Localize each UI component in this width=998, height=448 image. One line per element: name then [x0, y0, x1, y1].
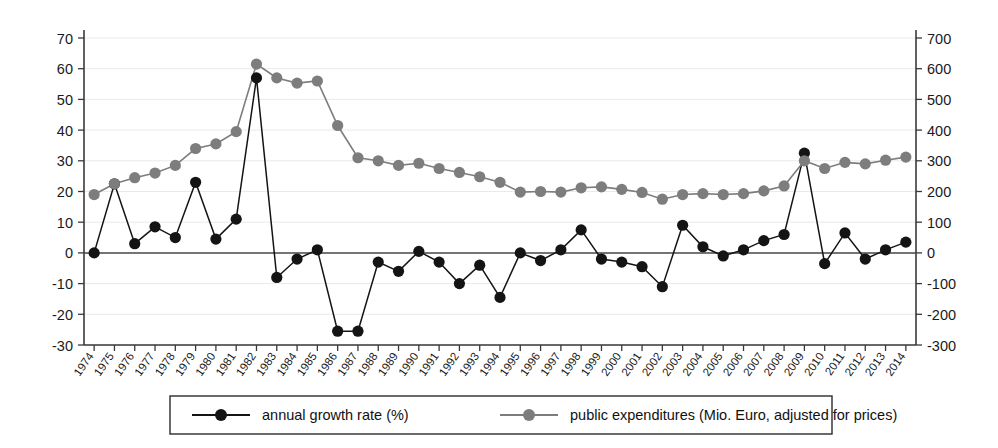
x-axis-tick-label: 1982: [234, 350, 259, 378]
data-point: [393, 160, 404, 171]
x-axis-tick-labels: 1974197519761977197819791980198119821983…: [71, 350, 908, 378]
data-point: [373, 155, 384, 166]
x-axis-tick-label: 2014: [883, 350, 908, 378]
legend-label: annual growth rate (%): [262, 407, 409, 423]
data-point: [149, 167, 160, 178]
right-axis-tick-label: -100: [927, 276, 956, 292]
x-axis-tick-label: 1985: [294, 350, 319, 378]
right-axis-tick-label: 700: [927, 31, 951, 47]
data-point: [778, 180, 789, 191]
data-point: [312, 244, 323, 255]
data-point: [312, 75, 323, 86]
data-point: [515, 187, 526, 198]
data-point: [89, 189, 100, 200]
data-point: [352, 152, 363, 163]
data-point: [210, 233, 221, 244]
data-point: [332, 120, 343, 131]
data-point: [819, 163, 830, 174]
data-point: [515, 247, 526, 258]
x-axis-tick-label: 1998: [558, 350, 583, 378]
x-axis-tick-label: 1997: [538, 350, 563, 378]
data-point: [231, 214, 242, 225]
data-point: [149, 221, 160, 232]
data-point: [860, 158, 871, 169]
legend-label: public expenditures (Mio. Euro, adjusted…: [570, 407, 897, 423]
x-axis-tick-label: 2012: [842, 350, 867, 378]
data-point: [271, 272, 282, 283]
chart-container: 706050403020100-10-20-30 700600500400300…: [0, 0, 998, 448]
data-point: [271, 72, 282, 83]
data-point: [190, 143, 201, 154]
left-axis-tick-label: -20: [52, 307, 73, 323]
x-axis-tick-label: 1988: [355, 350, 380, 378]
data-point: [657, 281, 668, 292]
left-axis-tick-label: 20: [57, 184, 73, 200]
data-point: [535, 255, 546, 266]
x-axis-tick-label: 2013: [863, 350, 888, 378]
x-axis-tick-label: 1987: [335, 350, 360, 378]
x-axis-tick-label: 2001: [619, 350, 644, 378]
right-axis-tick-label: 100: [927, 215, 951, 231]
data-point: [758, 185, 769, 196]
data-point: [596, 181, 607, 192]
data-point: [454, 167, 465, 178]
x-axis-tick-label: 1983: [254, 350, 279, 378]
data-point: [434, 163, 445, 174]
data-point: [89, 247, 100, 258]
data-point: [697, 188, 708, 199]
x-axis-tick-label: 1991: [416, 350, 441, 378]
data-point: [535, 186, 546, 197]
data-point: [718, 189, 729, 200]
data-point: [555, 187, 566, 198]
data-point: [839, 227, 850, 238]
x-axis-tick-label: 1992: [437, 350, 462, 378]
data-point: [231, 126, 242, 137]
right-axis-tick-label: 0: [927, 245, 935, 261]
data-point: [657, 194, 668, 205]
data-point: [596, 253, 607, 264]
right-axis-tick-label: 300: [927, 153, 951, 169]
data-point: [636, 261, 647, 272]
data-point: [352, 326, 363, 337]
data-point: [880, 155, 891, 166]
x-axis-tick-label: 1994: [477, 350, 502, 378]
x-axis-tick-label: 1981: [213, 350, 238, 378]
data-point: [413, 158, 424, 169]
data-point: [636, 187, 647, 198]
x-axis-tick-label: 1999: [579, 350, 604, 378]
data-point: [373, 257, 384, 268]
data-point: [190, 177, 201, 188]
right-axis-tick-label: -300: [927, 338, 956, 354]
data-point: [413, 246, 424, 257]
chart-legend: annual growth rate (%)public expenditure…: [170, 396, 897, 434]
x-axis-tick-label: 2008: [761, 350, 786, 378]
data-point: [494, 292, 505, 303]
left-axis-tick-label: 40: [57, 123, 73, 139]
data-point: [718, 250, 729, 261]
left-axis-tick-labels: 706050403020100-10-20-30: [52, 31, 73, 354]
data-point: [677, 189, 688, 200]
data-point: [900, 237, 911, 248]
data-point: [576, 224, 587, 235]
left-axis-tick-label: 50: [57, 92, 73, 108]
data-point: [900, 152, 911, 163]
x-axis-tick-label: 1989: [376, 350, 401, 378]
x-axis-tick-label: 2003: [660, 350, 685, 378]
left-axis-tick-label: 30: [57, 153, 73, 169]
data-point: [291, 253, 302, 264]
data-point: [494, 177, 505, 188]
right-axis-tick-label: 200: [927, 184, 951, 200]
right-axis-tick-label: 500: [927, 92, 951, 108]
x-axis-tick-label: 2000: [599, 350, 624, 378]
x-axis-tick-label: 1975: [92, 350, 117, 378]
data-point: [799, 155, 810, 166]
right-axis-tick-label: 600: [927, 61, 951, 77]
data-point: [677, 220, 688, 231]
right-axis-tick-label: -200: [927, 307, 956, 323]
x-axis-tick-label: 1979: [173, 350, 198, 378]
x-axis-tick-label: 2007: [741, 350, 766, 378]
data-point: [860, 253, 871, 264]
x-axis-tick-label: 1995: [497, 350, 522, 378]
data-point: [616, 184, 627, 195]
x-axis-tick-label: 1993: [457, 350, 482, 378]
